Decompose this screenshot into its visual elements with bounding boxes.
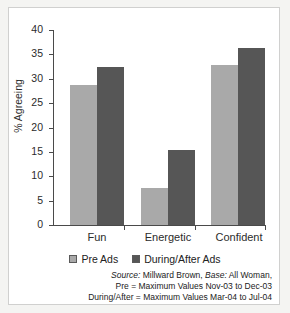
legend-label-post: During/After Ads: [144, 253, 220, 265]
y-tick-10: 10: [49, 176, 53, 177]
y-tick-label-0: 0: [37, 218, 43, 231]
y-tick-label-20: 20: [31, 121, 43, 134]
legend-item-pre-ads: Pre Ads: [69, 253, 118, 265]
bar-fun-pre: [70, 85, 97, 225]
y-tick-40: 40: [49, 30, 53, 31]
x-tick-2: [195, 226, 196, 230]
bar-confident-pre: [211, 65, 238, 225]
source-note: Source: Millward Brown, Base: All Woman,…: [17, 270, 272, 303]
y-tick-label-30: 30: [31, 72, 43, 85]
y-tick-25: 25: [49, 103, 53, 104]
legend-swatch-icon-pre: [69, 255, 77, 263]
y-tick-label-40: 40: [31, 23, 43, 36]
y-tick-label-25: 25: [31, 96, 43, 109]
source-word: Source:: [111, 270, 140, 280]
y-tick-30: 30: [49, 79, 53, 80]
legend-label-pre: Pre Ads: [81, 253, 118, 265]
y-tick-label-15: 15: [31, 145, 43, 158]
bar-energetic-post: [168, 150, 195, 225]
source-note-line-3: During/After = Maximum Values Mar-04 to …: [17, 292, 272, 303]
x-tick-3: [265, 226, 266, 230]
y-tick-5: 5: [49, 201, 53, 202]
x-category-label-confident: Confident: [215, 231, 262, 243]
base-word: Base:: [205, 270, 227, 280]
x-category-label-energetic: Energetic: [145, 231, 191, 243]
bar-energetic-pre: [141, 188, 168, 225]
base-value: All Woman,: [227, 270, 272, 280]
y-tick-label-35: 35: [31, 47, 43, 60]
chart-frame: % Agreeing 40 35 30 25 20 15 10: [8, 7, 280, 305]
y-tick-15: 15: [49, 152, 53, 153]
chart-figure: % Agreeing 40 35 30 25 20 15 10: [0, 0, 290, 313]
legend-item-during-after-ads: During/After Ads: [132, 253, 220, 265]
source-name: Millward Brown,: [140, 270, 205, 280]
y-tick-35: 35: [49, 54, 53, 55]
bar-fun-post: [97, 67, 124, 225]
y-tick-label-10: 10: [31, 169, 43, 182]
x-category-label-fun: Fun: [88, 231, 107, 243]
y-tick-label-5: 5: [37, 194, 43, 207]
x-axis-line: [53, 225, 266, 226]
x-tick-1: [124, 226, 125, 230]
bar-confident-post: [238, 48, 265, 225]
chart-legend: Pre Ads During/After Ads: [9, 253, 281, 265]
y-axis-line: [53, 30, 54, 226]
plot-area: 40 35 30 25 20 15 10 5 0: [53, 30, 266, 226]
y-tick-0: 0: [49, 225, 53, 226]
source-note-line-1: Source: Millward Brown, Base: All Woman,: [17, 270, 272, 281]
y-axis-title: % Agreeing: [12, 79, 24, 133]
legend-swatch-icon-post: [132, 255, 140, 263]
y-tick-20: 20: [49, 128, 53, 129]
source-note-line-2: Pre = Maximum Values Nov-03 to Dec-03: [17, 281, 272, 292]
